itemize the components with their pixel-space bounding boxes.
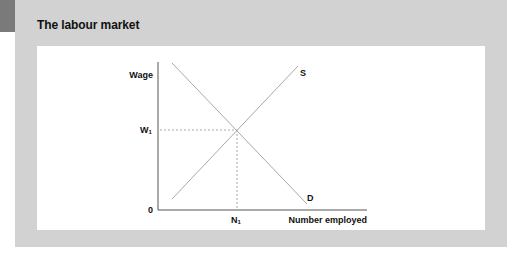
x-axis-label: Number employed (288, 215, 367, 225)
figure-title: The labour market (37, 18, 139, 32)
w-subscript: 1 (149, 129, 153, 135)
origin-label: 0 (148, 205, 153, 215)
corner-accent-block (0, 0, 15, 32)
supply-curve (172, 66, 298, 199)
y-axis-label: Wage (129, 70, 153, 80)
equilibrium-employment-label: N1 (231, 215, 242, 225)
n-subscript: 1 (238, 219, 242, 225)
chart-area: Wage Number employed 0 S D W1 N1 (37, 46, 485, 230)
labour-market-chart: Wage Number employed 0 S D W1 N1 (37, 46, 485, 230)
demand-curve (172, 63, 307, 204)
demand-label: D (307, 193, 314, 203)
supply-label: S (300, 68, 306, 78)
equilibrium-wage-label: W1 (140, 125, 153, 135)
